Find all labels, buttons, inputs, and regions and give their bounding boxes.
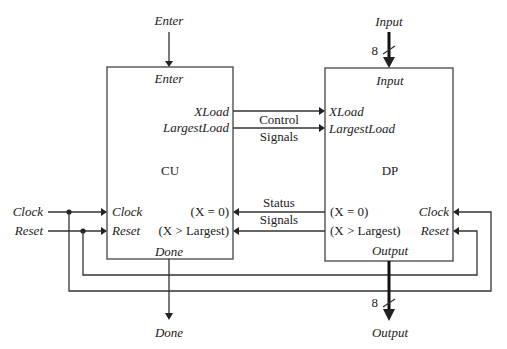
reset-input-label: Reset [14, 223, 44, 238]
input-bus-width: 8 [372, 43, 379, 58]
dp-clock-port: Clock [419, 204, 450, 219]
dp-xload-port: XLoad [328, 104, 364, 119]
cu-name: CU [161, 163, 180, 178]
cu-clock-port: Clock [112, 204, 143, 219]
x-gt-largest-status-arrow [233, 227, 325, 235]
clock-input-label: Clock [13, 204, 44, 219]
input-label: Input [374, 14, 403, 29]
done-output-label: Done [154, 325, 183, 340]
dp-name: DP [382, 163, 399, 178]
cu-dp-block-diagram: Enter Enter Input 8 Input XLoad LargestL… [0, 0, 507, 349]
cu-enter-port: Enter [154, 71, 185, 86]
control-signals-label-1: Control [259, 112, 299, 127]
enter-input-label: Enter [154, 13, 185, 28]
dp-largestload-port: LargestLoad [328, 121, 395, 136]
dp-input-port: Input [375, 73, 404, 88]
status-signals-label-1: Status [263, 195, 295, 210]
output-label: Output [372, 325, 409, 340]
cu-xload-port: XLoad [193, 104, 229, 119]
output-bus-width: 8 [372, 295, 379, 310]
cu-x-eq-0-port: (X = 0) [191, 204, 229, 219]
input-bus-arrow [383, 32, 395, 68]
dp-output-port: Output [372, 243, 409, 258]
dp-x-gt-largest-port: (X > Largest) [330, 223, 401, 238]
dp-x-eq-0-port: (X = 0) [330, 204, 368, 219]
cu-reset-port: Reset [111, 223, 141, 238]
status-signals-label-2: Signals [260, 212, 298, 227]
enter-input-arrow [165, 32, 173, 67]
cu-largestload-port: LargestLoad [162, 120, 229, 135]
control-signals-label-2: Signals [260, 129, 298, 144]
dp-reset-port: Reset [420, 223, 450, 238]
